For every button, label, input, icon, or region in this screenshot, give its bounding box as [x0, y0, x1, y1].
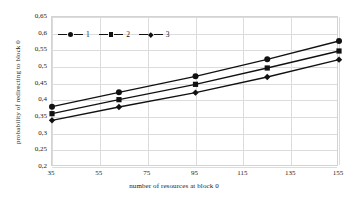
- y-tick-label: 0,65: [21, 12, 47, 20]
- diamond-marker-icon: [336, 56, 342, 62]
- y-tick-label: 0,45: [21, 79, 47, 87]
- x-tick-label: 155: [323, 169, 348, 177]
- legend-line-icon: [139, 34, 148, 35]
- x-tick-label: 55: [84, 169, 114, 177]
- square-marker-icon: [265, 65, 270, 70]
- y-tick-label: 0,55: [21, 45, 47, 53]
- square-marker-icon: [109, 32, 114, 37]
- circle-marker-icon: [49, 104, 55, 110]
- legend-item-3[interactable]: 3: [139, 30, 169, 39]
- series-layer: [52, 17, 339, 167]
- series-3: [49, 56, 342, 123]
- y-tick-label: 0,25: [21, 145, 47, 153]
- y-tick-label: 0,4: [21, 95, 47, 103]
- series-1: [49, 38, 342, 110]
- y-tick-label: 0,3: [21, 129, 47, 137]
- x-tick-label: 95: [180, 169, 210, 177]
- x-tick-label: 35: [36, 169, 66, 177]
- diamond-marker-icon: [148, 32, 153, 37]
- circle-marker-icon: [193, 73, 199, 79]
- chart-figure: probability of redirecting to block 0 nu…: [0, 0, 348, 201]
- chart-legend: 1 2 3: [58, 30, 169, 39]
- legend-item-2[interactable]: 2: [99, 30, 130, 39]
- diamond-marker-icon: [49, 117, 55, 123]
- legend-line-icon: [74, 34, 83, 35]
- y-tick-label: 0,35: [21, 112, 47, 120]
- square-marker-icon: [49, 111, 54, 116]
- x-tick-label: 115: [227, 169, 257, 177]
- legend-label-2: 2: [126, 30, 130, 39]
- diamond-marker-icon: [264, 74, 270, 80]
- x-axis-title: number of resources at block 0: [0, 182, 348, 190]
- y-tick-label: 0,5: [21, 62, 47, 70]
- x-tick-label: 75: [132, 169, 162, 177]
- diamond-marker-icon: [192, 89, 198, 95]
- legend-line-icon: [114, 34, 123, 35]
- legend-line-icon: [99, 34, 108, 35]
- square-marker-icon: [116, 97, 121, 102]
- diamond-marker-icon: [116, 104, 122, 110]
- circle-marker-icon: [116, 89, 122, 95]
- legend-label-1: 1: [86, 30, 90, 39]
- y-tick-label: 0,6: [21, 29, 47, 37]
- legend-line-icon: [58, 34, 67, 35]
- square-marker-icon: [193, 82, 198, 87]
- x-tick-label: 135: [275, 169, 305, 177]
- circle-marker-icon: [264, 56, 270, 62]
- legend-item-1[interactable]: 1: [58, 30, 90, 39]
- gridline-horizontal: [52, 167, 337, 168]
- legend-line-icon: [154, 34, 163, 35]
- circle-marker-icon: [68, 32, 73, 37]
- square-marker-icon: [336, 48, 341, 53]
- legend-label-3: 3: [166, 30, 170, 39]
- series-2: [49, 48, 341, 116]
- circle-marker-icon: [336, 38, 342, 44]
